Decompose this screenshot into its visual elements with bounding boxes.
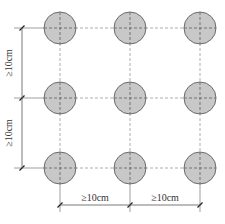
vertical-dim-label-2: ≥10cm: [3, 119, 14, 147]
horizontal-dim-label-1: ≥10cm: [81, 192, 109, 203]
spacing-diagram: ≥10cm ≥10cm ≥10cm ≥10cm: [0, 0, 225, 224]
dimension-lines: [14, 26, 203, 213]
dimension-labels: ≥10cm ≥10cm ≥10cm ≥10cm: [3, 49, 179, 203]
vertical-dim-label-1: ≥10cm: [3, 49, 14, 77]
horizontal-dim-label-2: ≥10cm: [151, 192, 179, 203]
